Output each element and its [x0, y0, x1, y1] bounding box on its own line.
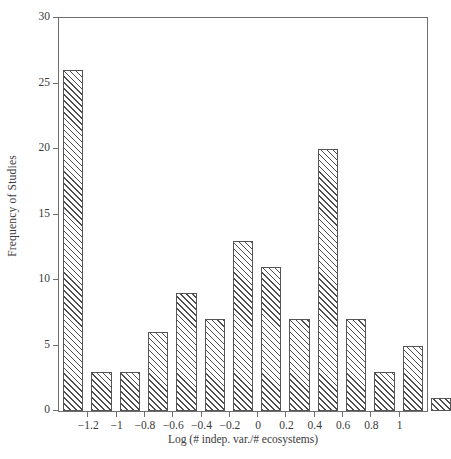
x-axis-tick-label: −0.4 [191, 419, 212, 431]
y-axis-tick: 20 [53, 148, 59, 149]
y-axis-tick: 15 [53, 214, 59, 215]
y-axis-tick: 0 [53, 410, 59, 411]
y-axis-tick-label: 10 [39, 272, 51, 284]
histogram-bar [120, 372, 140, 411]
x-axis-tick: 0.8 [370, 411, 371, 417]
histogram-bar [403, 346, 423, 412]
y-axis-tick-label: 30 [39, 10, 51, 22]
x-axis-tick-label: 0 [255, 419, 261, 431]
x-axis-tick: −0.4 [201, 411, 202, 417]
histogram-bar [233, 241, 253, 411]
y-axis-title: Frequency of Studies [0, 0, 24, 412]
histogram-bar [346, 319, 366, 411]
plot-area: 051015202530−1.2−1−0.8−0.6−0.4−0.200.20.… [58, 17, 428, 412]
y-axis-tick-label: 15 [39, 207, 51, 219]
x-axis-tick: −1.2 [87, 411, 88, 417]
y-axis-tick: 10 [53, 279, 59, 280]
histogram-bar [431, 398, 451, 411]
y-axis-tick-label: 25 [39, 76, 51, 88]
x-axis-tick-label: 0.2 [279, 419, 293, 431]
x-axis-tick: −0.6 [172, 411, 173, 417]
x-axis-tick-label: −0.6 [163, 419, 184, 431]
histogram-bar [91, 372, 111, 411]
y-axis-tick-label: 5 [44, 338, 50, 350]
x-axis-tick-label: 0.4 [308, 419, 322, 431]
histogram-bar [63, 70, 83, 411]
x-axis-tick-label: 1 [397, 419, 403, 431]
x-axis-tick-label: 0.8 [364, 419, 378, 431]
x-axis-tick: 0 [257, 411, 258, 417]
x-axis-tick: −0.8 [144, 411, 145, 417]
x-axis-tick-label: −1 [110, 419, 122, 431]
x-axis-tick-label: 0.6 [336, 419, 350, 431]
x-axis-tick-label: −1.2 [78, 419, 99, 431]
y-axis-tick-label: 20 [39, 141, 51, 153]
x-axis-tick: −1 [116, 411, 117, 417]
histogram-bar [289, 319, 309, 411]
y-axis-tick: 25 [53, 83, 59, 84]
histogram-bar [205, 319, 225, 411]
y-axis-tick: 30 [53, 17, 59, 18]
y-axis-tick: 5 [53, 345, 59, 346]
histogram-bar [374, 372, 394, 411]
x-axis-title: Log (# indep. var./# ecosystems) [58, 433, 428, 445]
histogram-bar [148, 332, 168, 411]
histogram-bar [176, 293, 196, 411]
histogram-bar [318, 149, 338, 411]
x-axis-tick: 1 [399, 411, 400, 417]
y-axis-tick-label: 0 [44, 403, 50, 415]
x-axis-tick: 0.4 [314, 411, 315, 417]
y-axis-title-text: Frequency of Studies [6, 155, 18, 257]
x-axis-tick-label: −0.2 [219, 419, 240, 431]
x-axis-tick-label: −0.8 [134, 419, 155, 431]
bars-group [59, 18, 427, 411]
x-axis-tick: −0.2 [229, 411, 230, 417]
histogram-bar [261, 267, 281, 411]
x-axis-tick: 0.6 [342, 411, 343, 417]
x-axis-tick: 0.2 [285, 411, 286, 417]
